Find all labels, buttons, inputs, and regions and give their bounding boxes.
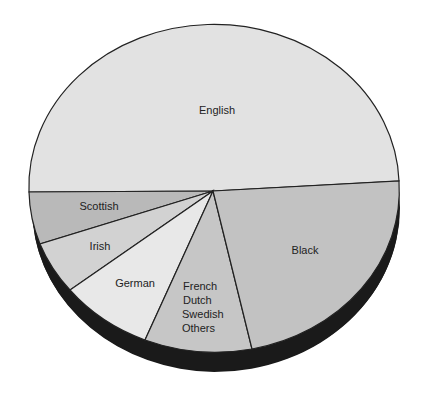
- label-other-french: French: [183, 280, 217, 292]
- label-other-others: Others: [182, 322, 216, 334]
- label-other-dutch: Dutch: [183, 294, 212, 306]
- label-other-swedish: Swedish: [182, 308, 224, 320]
- label-irish: Irish: [90, 240, 111, 252]
- pie-chart: English Black Scottish Irish German Fren…: [0, 0, 421, 397]
- label-scottish: Scottish: [79, 200, 118, 212]
- label-german: German: [115, 277, 155, 289]
- label-black: Black: [292, 244, 319, 256]
- label-english: English: [199, 104, 235, 116]
